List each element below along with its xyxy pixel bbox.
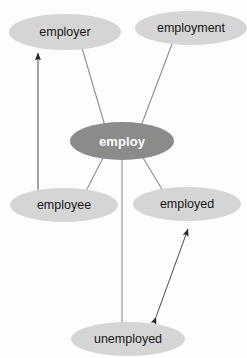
- node-unemployed[interactable]: unemployed: [71, 322, 185, 356]
- diagram-edges-layer: [0, 0, 247, 358]
- node-unemployed-label: unemployed: [94, 332, 162, 345]
- node-employment[interactable]: employment: [135, 11, 247, 45]
- semantic-network-diagram: employer employment employ employee empl…: [0, 0, 247, 358]
- node-employment-label: employment: [157, 21, 225, 34]
- node-employer-label: employer: [39, 25, 90, 38]
- edge-employ-employee: [86, 156, 104, 191]
- edge-employ-employer: [82, 48, 105, 126]
- edge-employ-employed: [142, 156, 163, 191]
- node-employed-label: employed: [160, 197, 214, 210]
- edge-employed-unemployed-arrow: [156, 229, 188, 317]
- edge-employ-employment: [141, 44, 172, 126]
- node-employ-label: employ: [99, 134, 145, 147]
- node-employ[interactable]: employ: [70, 122, 174, 160]
- node-employee[interactable]: employee: [10, 188, 118, 222]
- node-employed[interactable]: employed: [133, 187, 241, 221]
- node-employer[interactable]: employer: [9, 14, 121, 50]
- node-employee-label: employee: [37, 198, 91, 211]
